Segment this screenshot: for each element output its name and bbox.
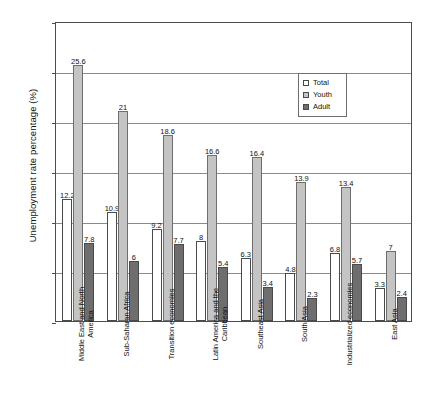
legend-swatch-adult [303, 104, 309, 110]
bar-value-label: 13.9 [294, 175, 309, 183]
bars-layer: 12.225.67.810.92169.218.67.7816.65.46.31… [56, 23, 411, 321]
x-axis-tick-label: South Asia [300, 281, 309, 367]
x-axis-tick-label: Industrialized economies [345, 281, 354, 367]
bar-value-label: 5.4 [218, 260, 228, 268]
bar-value-label: 9.2 [151, 222, 161, 230]
bar-value-label: 7.7 [173, 237, 183, 245]
legend-item: Adult [303, 101, 342, 113]
legend-swatch-total [303, 80, 309, 86]
bar-value-label: 18.6 [160, 128, 175, 136]
legend-item: Youth [303, 89, 342, 101]
bar-group: 4.813.92.3 [279, 23, 324, 321]
bar-total: 10.9 [107, 212, 117, 321]
bar-value-label: 6.3 [241, 251, 251, 259]
bar-group: 6.813.45.7 [324, 23, 369, 321]
bar-value-label: 6 [132, 254, 136, 262]
bar-value-label: 16.4 [250, 150, 265, 158]
bar-group: 9.218.67.7 [145, 23, 190, 321]
bar-value-label: 8 [199, 234, 203, 242]
x-axis-tick-label: Transition economies [167, 281, 176, 367]
plot-area: 12.225.67.810.92169.218.67.7816.65.46.31… [55, 22, 412, 322]
bar-group: 3.372.4 [368, 23, 413, 321]
bar-total: 4.8 [285, 273, 295, 321]
bar-value-label: 16.6 [205, 148, 220, 156]
bar-total: 6.8 [330, 253, 340, 321]
bar-group: 10.9216 [101, 23, 146, 321]
bar-total: 6.3 [241, 258, 251, 321]
x-axis-tick-labels: Middle East and North AmericaSub-Saharan… [55, 324, 412, 412]
bar-value-label: 3.3 [374, 281, 384, 289]
bar-group: 12.225.67.8 [56, 23, 101, 321]
x-axis-tick-label: Latin America and the Caribbean [211, 281, 229, 367]
x-axis-tick-label: Sub-Saharan Africa [122, 281, 131, 367]
bar-value-label: 4.8 [285, 266, 295, 274]
bar-chart: Unemployment rate percentage (%) 0510152… [0, 0, 432, 412]
legend-label: Total [313, 79, 329, 87]
bar-value-label: 13.4 [339, 180, 354, 188]
bar-total: 3.3 [375, 288, 385, 321]
bar-group: 6.316.43.4 [235, 23, 280, 321]
bar-total: 8 [196, 241, 206, 321]
legend-swatch-youth [303, 92, 309, 98]
chart-legend: TotalYouthAdult [298, 73, 347, 117]
bar-value-label: 7 [389, 244, 393, 252]
legend-item: Total [303, 77, 342, 89]
bar-value-label: 25.6 [71, 58, 86, 66]
x-axis-tick-label: East Asia [390, 281, 399, 367]
bar-value-label: 6.8 [330, 246, 340, 254]
bar-value-label: 7.8 [84, 236, 94, 244]
bar-total: 9.2 [152, 229, 162, 321]
bar-value-label: 5.7 [352, 257, 362, 265]
bar-total: 12.2 [62, 199, 72, 321]
legend-label: Youth [313, 91, 332, 99]
x-axis-tick-label: Southeast Asia [256, 281, 265, 367]
bar-value-label: 21 [119, 104, 127, 112]
legend-label: Adult [313, 103, 330, 111]
y-axis-title: Unemployment rate percentage (%) [27, 6, 38, 326]
bar-group: 816.65.4 [190, 23, 235, 321]
x-axis-tick-label: Middle East and North America [77, 281, 95, 367]
